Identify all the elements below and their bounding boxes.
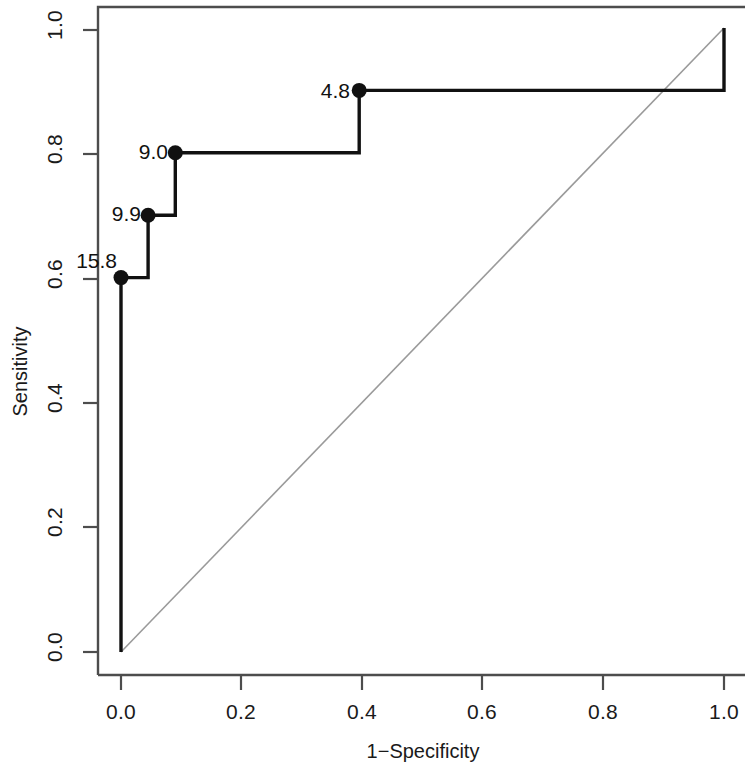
- x-tick-label-5: 1.0: [700, 700, 745, 724]
- y-axis-ticks: [83, 30, 98, 652]
- y-tick-label-5: 1.0: [43, 1, 67, 49]
- y-tick-label-2: 0.4: [43, 374, 67, 422]
- roc-threshold-markers: [114, 83, 367, 285]
- x-tick-label-1: 0.2: [217, 700, 265, 724]
- reference-diagonal-line: [121, 28, 724, 652]
- roc-point-9-0: [168, 145, 183, 160]
- y-axis-title: Sensitivity: [9, 302, 32, 442]
- roc-point-9-9: [141, 208, 156, 223]
- roc-point-label-9-9: 9.9: [62, 202, 141, 226]
- y-tick-label-4: 0.8: [43, 125, 67, 173]
- roc-chart-canvas: [0, 0, 745, 770]
- y-tick-label-0: 0.0: [43, 623, 67, 671]
- x-axis-ticks: [121, 675, 724, 690]
- x-tick-label-3: 0.6: [458, 700, 506, 724]
- roc-plot: 0.0 0.2 0.4 0.6 0.8 1.0 0.0 0.2 0.4 0.6 …: [0, 0, 745, 770]
- x-tick-label-4: 0.8: [579, 700, 627, 724]
- x-tick-label-0: 0.0: [97, 700, 145, 724]
- x-axis-title: 1−Specificity: [323, 740, 523, 763]
- roc-point-label-9-0: 9.0: [89, 140, 168, 164]
- roc-point-label-4-8: 4.8: [271, 79, 350, 103]
- y-tick-label-1: 0.2: [43, 498, 67, 546]
- x-tick-label-2: 0.4: [338, 700, 386, 724]
- roc-point-label-15-8: 15.8: [35, 249, 117, 273]
- roc-point-4-8: [352, 83, 367, 98]
